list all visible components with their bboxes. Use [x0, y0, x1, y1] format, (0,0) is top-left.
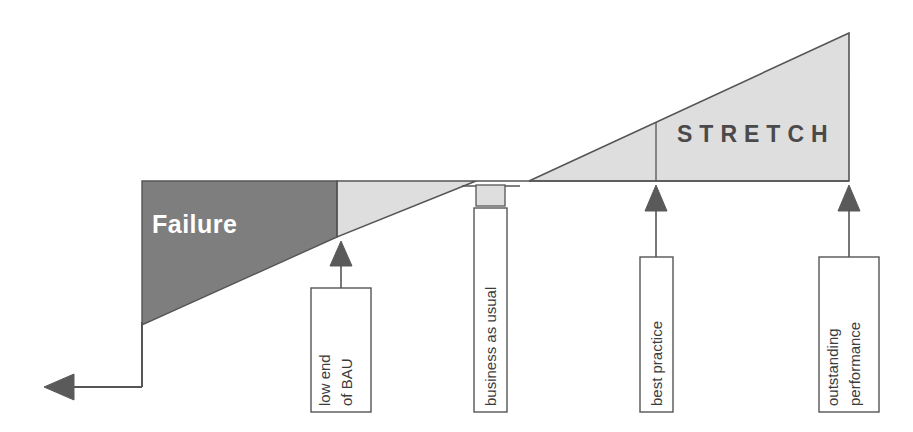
- arrow-up-icon: [838, 185, 860, 211]
- callout-best-practice[interactable]: best practice: [640, 185, 673, 412]
- capped-box-head: [476, 185, 505, 206]
- callout-low-end-of-bau[interactable]: low end of BAU: [311, 241, 371, 412]
- band-failure-shape: [142, 181, 337, 325]
- callout-business-as-usual[interactable]: business as usual: [462, 185, 520, 412]
- decreasing-axis-group: [44, 322, 142, 400]
- arrow-up-icon: [330, 241, 352, 266]
- band-label-stretch: STRETCH: [677, 121, 835, 147]
- arrow-left-icon: [44, 374, 74, 400]
- callout-label-line-2: of BAU: [338, 358, 355, 406]
- diagram-canvas: Failure STRETCH low end of BAU business …: [0, 0, 913, 432]
- callout-label-line-1: low end: [316, 354, 333, 406]
- callout-outstanding-performance[interactable]: outstanding performance: [819, 185, 879, 412]
- callout-label-line-1: best practice: [648, 321, 665, 406]
- callout-label-line-2: performance: [846, 322, 863, 406]
- band-label-failure: Failure: [152, 210, 237, 238]
- arrow-up-icon: [645, 185, 667, 211]
- callout-label-line-1: outstanding: [824, 328, 841, 406]
- band-stretch-shape: [529, 33, 849, 181]
- callout-label-line-1: business as usual: [482, 287, 499, 406]
- band-bau-ramp-shape: [337, 181, 476, 237]
- performance-wedge-diagram: Failure STRETCH low end of BAU business …: [0, 0, 913, 432]
